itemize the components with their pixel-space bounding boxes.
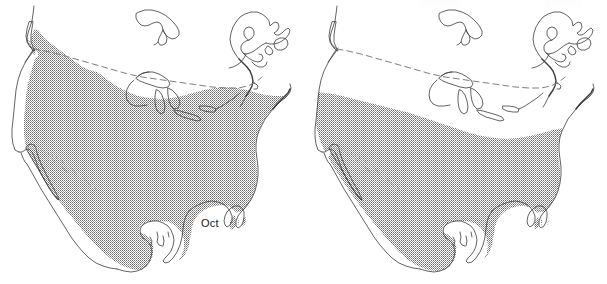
map-svg-dec [303, 0, 606, 284]
range-map-figure: Oct [0, 0, 607, 284]
map-panel-dec: Dec [303, 0, 606, 284]
us-canada-border-dashed-dec [337, 49, 565, 88]
panel-label-oct: Oct [201, 217, 219, 229]
map-panel-oct: Oct [0, 0, 303, 284]
map-svg-oct [0, 0, 303, 284]
